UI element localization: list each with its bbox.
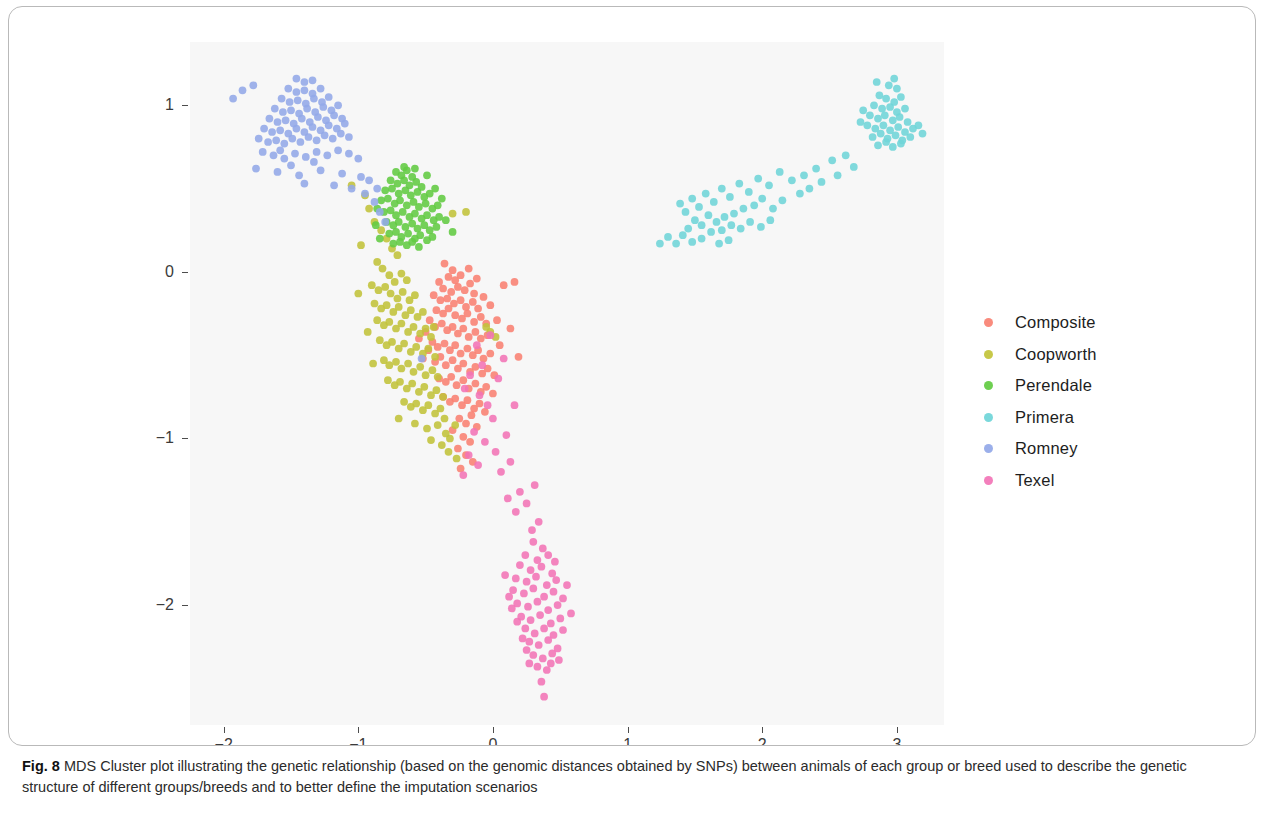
- y-tick-mark: [182, 438, 188, 439]
- legend-label: Coopworth: [1015, 345, 1097, 364]
- legend-item-texel[interactable]: Texel: [984, 465, 1184, 497]
- y-tick-label: 1: [128, 96, 174, 114]
- figure-label: Fig. 8: [22, 758, 60, 774]
- y-tick-mark: [182, 272, 188, 273]
- scatter-plot-panel: [190, 42, 944, 725]
- legend-swatch-icon: [984, 444, 993, 453]
- y-tick-mark: [182, 105, 188, 106]
- y-tick-label: −1: [128, 429, 174, 447]
- scatter-points-svg: [190, 42, 944, 725]
- x-tick-mark: [628, 727, 629, 733]
- x-tick-label: 1: [623, 736, 632, 746]
- x-tick-label: 3: [892, 736, 901, 746]
- legend-swatch-icon: [984, 318, 993, 327]
- legend-label: Primera: [1015, 408, 1074, 427]
- legend-label: Composite: [1015, 313, 1096, 332]
- figure-frame: −2−10123 10−1−2 CompositeCoopworthPerend…: [8, 6, 1256, 746]
- legend-label: Romney: [1015, 439, 1078, 458]
- legend-item-composite[interactable]: Composite: [984, 307, 1184, 339]
- x-tick-label: 0: [488, 736, 497, 746]
- x-tick-mark: [493, 727, 494, 733]
- legend-swatch-icon: [984, 350, 993, 359]
- x-tick-label: −2: [215, 736, 233, 746]
- legend-swatch-icon: [984, 381, 993, 390]
- legend-label: Perendale: [1015, 376, 1092, 395]
- legend-label: Texel: [1015, 471, 1055, 490]
- x-tick-mark: [358, 727, 359, 733]
- y-tick-label: 0: [128, 263, 174, 281]
- x-tick-mark: [762, 727, 763, 733]
- legend-swatch-icon: [984, 413, 993, 422]
- y-tick-mark: [182, 605, 188, 606]
- x-tick-label: 2: [758, 736, 767, 746]
- legend-item-romney[interactable]: Romney: [984, 433, 1184, 465]
- series-primera: [656, 75, 926, 248]
- legend-item-coopworth[interactable]: Coopworth: [984, 339, 1184, 371]
- x-tick-mark: [224, 727, 225, 733]
- x-tick-mark: [897, 727, 898, 733]
- figure-caption: Fig. 8 MDS Cluster plot illustrating the…: [22, 756, 1247, 797]
- legend-item-perendale[interactable]: Perendale: [984, 370, 1184, 402]
- y-tick-label: −2: [128, 596, 174, 614]
- figure-caption-text: MDS Cluster plot illustrating the geneti…: [22, 758, 1187, 795]
- x-tick-label: −1: [349, 736, 367, 746]
- legend-swatch-icon: [984, 476, 993, 485]
- legend: CompositeCoopworthPerendalePrimeraRomney…: [984, 307, 1184, 496]
- data-points-layer: [190, 42, 944, 725]
- legend-item-primera[interactable]: Primera: [984, 402, 1184, 434]
